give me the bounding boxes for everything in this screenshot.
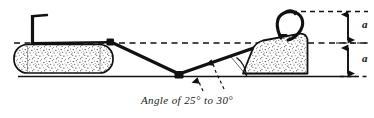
upright-post bbox=[32, 15, 47, 44]
cable-log-node bbox=[107, 39, 115, 46]
cable-ground-node bbox=[175, 71, 184, 79]
log bbox=[14, 45, 113, 74]
log-top-member bbox=[31, 42, 110, 43]
angle-caption: Angle of 25° to 30° bbox=[0, 94, 374, 106]
diagram-root: a a Angle of 25° to 30° bbox=[0, 0, 374, 118]
earth-ramp bbox=[243, 34, 308, 74]
dimension-label-lower: a bbox=[362, 52, 368, 64]
dimension-label-upper: a bbox=[362, 18, 368, 30]
angle-arc bbox=[231, 57, 247, 76]
